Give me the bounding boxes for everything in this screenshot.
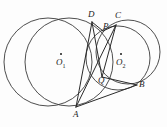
point-label-D: D [88,10,95,19]
circles-group [4,18,160,106]
point-label-P: P [103,22,109,31]
center-label-o2: O2 [116,58,126,69]
center-dot-o1 [60,53,62,55]
segment-D-A [76,22,92,107]
geometry-figure: O1 O2 D C P Q B A [0,0,167,127]
point-label-B: B [139,80,145,89]
point-label-C: C [115,11,121,20]
center-label-o1: O1 [56,58,66,69]
segments-group [76,22,137,107]
center-label-o2-subscript: 2 [123,63,126,69]
point-label-A: A [73,110,79,119]
segment-C-Q [102,25,116,77]
segment-D-Q [92,22,102,77]
geometry-canvas [0,0,167,127]
center-dot-o2 [120,53,122,55]
point-label-Q: Q [98,76,105,85]
center-label-o1-subscript: 1 [63,63,66,69]
